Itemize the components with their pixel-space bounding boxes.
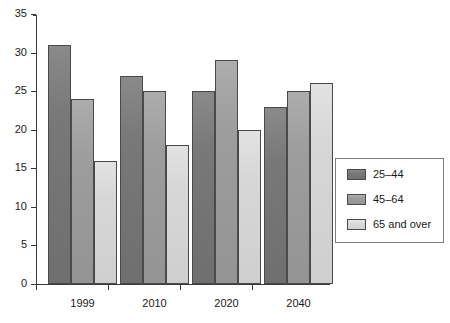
legend: 25–44 45–64 65 and over	[335, 158, 444, 243]
legend-item-label: 45–64	[373, 193, 404, 206]
legend-swatch-icon	[347, 219, 366, 230]
y-axis-tick-label: 5	[21, 238, 27, 251]
x-axis-line	[36, 284, 330, 285]
x-axis-tick-label: 1999	[70, 297, 94, 310]
bar	[238, 130, 261, 284]
y-axis-tick: 5	[31, 245, 36, 246]
y-axis-tick-label: 25	[15, 84, 27, 97]
bar	[120, 76, 143, 284]
bar	[94, 161, 117, 284]
bar	[310, 83, 333, 284]
bar	[264, 107, 287, 284]
x-axis-tick-label: 2020	[214, 297, 238, 310]
y-axis-tick: 20	[31, 130, 36, 131]
legend-item: 65 and over	[347, 218, 431, 231]
legend-item: 25–44	[347, 168, 404, 181]
x-axis-tick-label: 2040	[286, 297, 310, 310]
bar	[143, 91, 166, 284]
bar	[192, 91, 215, 284]
y-axis-top-cap	[33, 15, 37, 16]
legend-swatch-icon	[347, 169, 366, 180]
bar	[215, 60, 238, 284]
y-axis-tick-label: 0	[21, 277, 27, 290]
x-axis-tick	[180, 285, 181, 290]
legend-swatch-icon	[347, 194, 366, 205]
x-axis-tick	[252, 285, 253, 290]
y-axis-tick: 15	[31, 168, 36, 169]
x-axis-tick	[108, 285, 109, 290]
y-axis-tick-label: 35	[15, 7, 27, 20]
y-axis-tick: 25	[31, 91, 36, 92]
bar	[287, 91, 310, 284]
y-axis-line	[36, 15, 37, 285]
y-axis-tick-label: 30	[15, 46, 27, 59]
bar	[48, 45, 71, 284]
y-axis-tick: 30	[31, 53, 36, 54]
x-axis-tick-label: 2010	[142, 297, 166, 310]
y-axis-tick: 35	[31, 14, 36, 15]
legend-item-label: 25–44	[373, 168, 404, 181]
legend-item: 45–64	[347, 193, 404, 206]
bar-chart: 05101520253035 1999201020202040 25–44 45…	[0, 0, 450, 323]
y-axis-tick-label: 20	[15, 123, 27, 136]
y-axis-tick: 10	[31, 207, 36, 208]
bar	[71, 99, 94, 284]
x-axis-tick	[36, 285, 37, 290]
bar	[166, 145, 189, 284]
legend-item-label: 65 and over	[373, 218, 431, 231]
plot-area: 05101520253035 1999201020202040	[36, 15, 330, 285]
y-axis-tick-label: 15	[15, 161, 27, 174]
y-axis-tick-label: 10	[15, 200, 27, 213]
